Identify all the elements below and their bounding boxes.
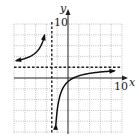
curve-arrow-icon (15, 57, 22, 62)
curve-arrow-icon (53, 123, 58, 130)
y-axis-arrow-icon (66, 9, 71, 15)
y-max-tick-label: 10 (54, 16, 68, 29)
right-branch-curve (56, 71, 115, 125)
rational-function-graph: y 10 10 x (0, 0, 139, 137)
x-axis-label: x (129, 76, 136, 89)
curve-arrow-icon (109, 69, 116, 74)
y-axis-label: y (59, 2, 67, 15)
curve-arrows (15, 34, 116, 130)
left-branch-curve (16, 35, 44, 60)
x-max-tick-label: 10 (114, 80, 128, 93)
